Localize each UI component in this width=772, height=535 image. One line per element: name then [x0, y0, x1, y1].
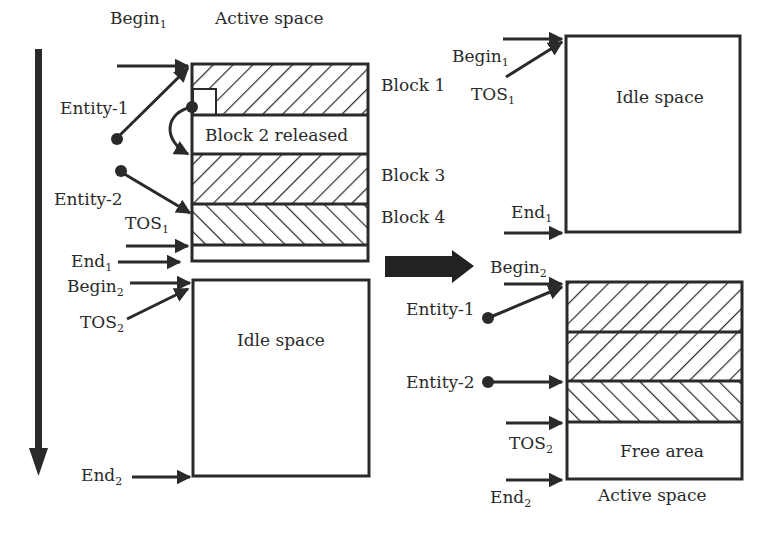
label-end2-right: End2	[490, 489, 531, 509]
label-entity2-right: Entity-2	[406, 374, 475, 391]
label-active-space-right: Active space	[598, 487, 706, 504]
left-active-space	[192, 64, 368, 261]
right-arrow-icon	[385, 250, 474, 283]
label-entity1: Entity-1	[60, 100, 129, 117]
label-tos2: TOS2	[80, 314, 124, 334]
label-block1: Block 1	[381, 77, 445, 94]
label-block2-released: Block 2 released	[205, 127, 348, 144]
label-idle-space-left: Idle space	[237, 332, 325, 349]
label-entity1-right: Entity-1	[406, 301, 475, 318]
label-begin2: Begin2	[67, 278, 124, 298]
block2-origin-dot	[186, 101, 198, 113]
block2-move-arrow	[170, 107, 192, 154]
label-begin2-right: Begin2	[490, 259, 547, 279]
block-3	[192, 154, 368, 204]
entity1-dot	[111, 133, 123, 145]
label-free-area: Free area	[620, 443, 704, 460]
left-pointers	[117, 66, 192, 477]
label-tos1-right: TOS1	[471, 86, 515, 106]
label-active-space: Active space	[215, 10, 323, 27]
label-end1: End1	[71, 253, 112, 273]
compacted-block-4	[567, 381, 742, 422]
block-1	[192, 64, 368, 115]
label-end1-right: End1	[511, 204, 552, 224]
left-idle-space-box	[193, 280, 369, 476]
label-tos2-right: TOS2	[509, 435, 553, 455]
entity2-dot-right	[482, 376, 494, 388]
compacted-block-3	[567, 332, 742, 381]
time-axis-arrow	[29, 49, 48, 476]
tos2-arrow	[127, 289, 188, 319]
entity2-dot	[115, 165, 127, 177]
label-end2: End2	[81, 467, 122, 487]
label-begin1: Begin1	[110, 10, 167, 30]
label-block3: Block 3	[381, 167, 445, 184]
entity1-arrow-right	[488, 287, 562, 318]
entity2-arrow	[121, 172, 190, 213]
label-tos1: TOS1	[125, 215, 169, 235]
compacted-block-1	[567, 282, 742, 332]
label-entity2: Entity-2	[54, 191, 123, 208]
tos1-arrow-right	[506, 42, 562, 77]
block-1-gap	[193, 89, 216, 115]
block-4	[192, 204, 368, 245]
stack-compaction-diagram: Begin1 Active space Entity-1 Block 2 rel…	[0, 0, 772, 535]
label-block4: Block 4	[381, 209, 445, 226]
label-begin1-right: Begin1	[452, 48, 509, 68]
entity1-dot-right	[482, 312, 494, 324]
label-idle-space-right: Idle space	[616, 89, 704, 106]
right-idle-space-box	[566, 36, 740, 232]
